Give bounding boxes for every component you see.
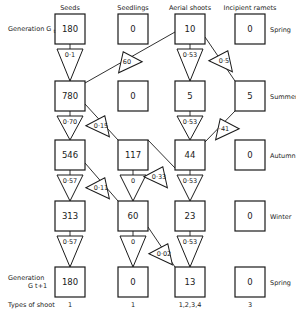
- season-label: Winter: [270, 213, 292, 221]
- stage-value: 5: [187, 91, 192, 101]
- stage-value: 180: [62, 24, 78, 34]
- shoot-type-value: 1,2,3,4: [179, 301, 202, 309]
- stage-value: 60: [128, 211, 139, 221]
- column-header: Incipient ramets: [223, 4, 277, 12]
- shoot-type-value: 1: [131, 301, 135, 309]
- transition-value: 0·53: [183, 118, 197, 126]
- transition-value: 0·57: [63, 238, 77, 246]
- transition-value: 0·53: [183, 51, 197, 59]
- shoot-type-value: 1: [68, 301, 72, 309]
- season-label: Summer: [270, 93, 296, 101]
- transition-value: 0·11: [94, 184, 108, 192]
- generation-start-label: Generation G t: [8, 25, 55, 34]
- transition-value: 0·02: [157, 250, 171, 258]
- types-of-shoot-label: Types of shoot: [7, 301, 55, 309]
- stage-value: 23: [185, 211, 196, 221]
- season-label: Spring: [270, 279, 291, 287]
- stage-value: 5: [247, 91, 252, 101]
- transition-value: 0·53: [183, 238, 197, 246]
- transition-value: ·41: [219, 125, 229, 133]
- transition-value: 0·1: [65, 51, 75, 59]
- transition-value: 0: [131, 177, 135, 185]
- transition-value: 0·57: [63, 177, 77, 185]
- stage-value: 0: [130, 277, 135, 287]
- transition-value: 0·15: [94, 122, 108, 130]
- stage-value: 780: [62, 91, 78, 101]
- stage-value: 0: [247, 24, 252, 34]
- life-cycle-diagram: 600·50·15·410·330·110·02 SeedsSeedlingsA…: [0, 0, 296, 313]
- season-label: Spring: [270, 26, 291, 34]
- column-header: Aerial shoots: [169, 4, 212, 12]
- stage-value: 313: [62, 211, 78, 221]
- shoot-type-value: 3: [248, 301, 252, 309]
- transition-value: 0·5: [219, 57, 229, 65]
- generation-end-subscript: G t+1: [28, 282, 47, 290]
- column-header: Seedlings: [117, 4, 149, 12]
- stage-value: 0: [247, 277, 252, 287]
- column-header: Seeds: [60, 4, 80, 12]
- transition-value: 0: [131, 238, 135, 246]
- generation-end-label: Generation: [8, 274, 44, 282]
- season-label: Autumn: [270, 152, 296, 160]
- transition-value: 0·33: [152, 173, 166, 181]
- stage-value: 0: [247, 150, 252, 160]
- stage-value: 10: [185, 24, 196, 34]
- stage-value: 0: [130, 24, 135, 34]
- stage-value: 0: [130, 91, 135, 101]
- stage-value: 117: [125, 150, 141, 160]
- stage-value: 0: [247, 211, 252, 221]
- stage-value: 44: [185, 150, 196, 160]
- stage-value: 13: [185, 277, 196, 287]
- transition-value: 0·53: [183, 177, 197, 185]
- transition-value: 0·70: [63, 118, 77, 126]
- stage-value: 546: [62, 150, 78, 160]
- transition-value: 60: [123, 58, 131, 66]
- stage-value: 180: [62, 277, 78, 287]
